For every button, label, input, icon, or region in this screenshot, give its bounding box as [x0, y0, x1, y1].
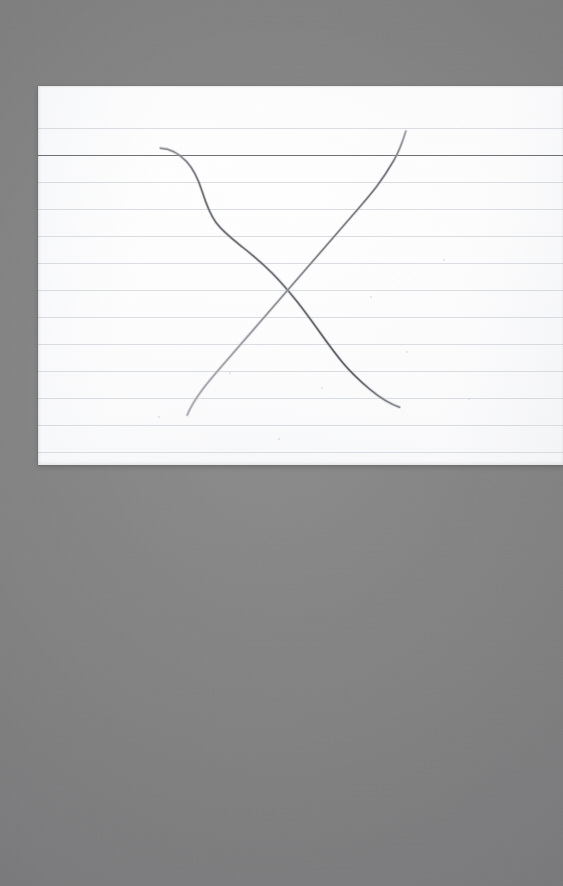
card-rule-line [38, 425, 563, 426]
card-paper-tone [38, 86, 563, 465]
paper-speck [278, 438, 280, 440]
paper-speck [468, 398, 470, 400]
card-rule-line [38, 209, 563, 210]
card-rule-line [38, 236, 563, 237]
card-rule-line [38, 371, 563, 372]
index-card [38, 86, 563, 465]
card-rule-line [38, 263, 563, 264]
card-rule-line [38, 128, 563, 129]
paper-speck [370, 296, 372, 298]
card-rule-line [38, 398, 563, 399]
paper-speck [443, 259, 445, 261]
screenshot-scene [0, 0, 563, 886]
card-rule-line [38, 344, 563, 345]
paper-speck [158, 416, 160, 418]
paper-speck [321, 387, 323, 389]
card-rule-line [38, 290, 563, 291]
paper-speck [229, 372, 231, 374]
card-rule-line [38, 452, 563, 453]
card-rule-line [38, 317, 563, 318]
card-header-rule [38, 155, 563, 156]
card-rule-line [38, 182, 563, 183]
paper-speck [406, 351, 408, 353]
